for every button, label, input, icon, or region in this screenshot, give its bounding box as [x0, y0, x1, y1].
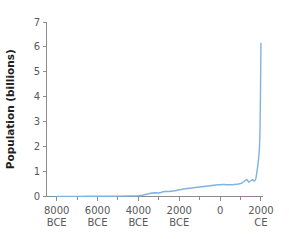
x-axis-tick-label-era: BCE: [128, 217, 148, 228]
y-axis-tick-label: 3: [34, 116, 40, 127]
y-axis-tick-label: 5: [34, 66, 40, 77]
y-axis-tick-label: 0: [34, 191, 40, 202]
x-axis-tick-label: 6000: [85, 205, 110, 216]
y-axis-tick-label: 6: [34, 41, 40, 52]
x-axis-tick-label: 2000: [167, 205, 192, 216]
y-axis-tick-label: 4: [34, 91, 40, 102]
population-line-chart: 01234567Population (billions)8000BCE6000…: [0, 0, 289, 239]
x-axis-tick-label: 4000: [126, 205, 151, 216]
y-axis-title: Population (billions): [4, 49, 16, 169]
x-axis-tick-label-era: CE: [254, 217, 267, 228]
x-axis-tick-label: 0: [217, 205, 223, 216]
x-axis-tick-label-era: BCE: [88, 217, 108, 228]
x-axis-tick-label: 8000: [44, 205, 69, 216]
x-axis-tick-label-era: BCE: [169, 217, 189, 228]
chart-container: 01234567Population (billions)8000BCE6000…: [0, 0, 289, 239]
y-axis-tick-label: 1: [34, 166, 40, 177]
x-axis-tick-label-era: BCE: [47, 217, 67, 228]
y-axis-tick-label: 2: [34, 141, 40, 152]
data-series-line: [57, 43, 261, 196]
y-axis-tick-label: 7: [34, 17, 40, 28]
x-axis-tick-label: 2000: [248, 205, 273, 216]
